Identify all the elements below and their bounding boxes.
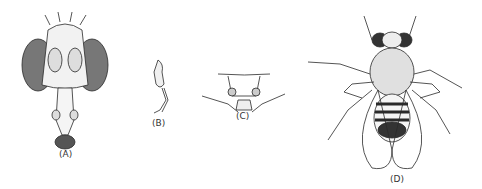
head-drawing — [22, 12, 108, 149]
fly-drawing — [308, 16, 462, 169]
mouthparts-drawing — [202, 74, 285, 112]
antenna-drawing — [154, 60, 168, 113]
panel-label-c: (C) — [236, 111, 249, 121]
figure-drawings — [0, 0, 482, 189]
panel-label-b: (B) — [152, 118, 165, 128]
panel-label-a: (A) — [59, 149, 72, 159]
panel-label-d: (D) — [390, 174, 404, 184]
